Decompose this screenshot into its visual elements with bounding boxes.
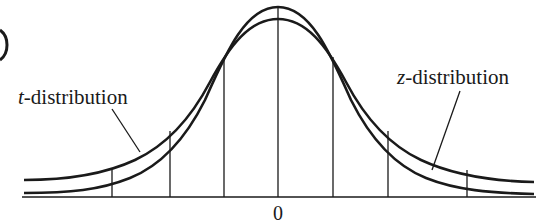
reference-lines (112, 7, 467, 197)
cropped-edge-mark (0, 30, 7, 60)
z-distribution-label: z-distribution (396, 65, 510, 89)
center-tick-label: 0 (273, 202, 283, 224)
t-distribution-leader (112, 109, 140, 152)
t-vs-z-distribution-diagram: t-distribution z-distribution 0 (0, 0, 536, 224)
z-distribution-leader (432, 91, 460, 170)
t-distribution-label: t-distribution (18, 85, 128, 109)
